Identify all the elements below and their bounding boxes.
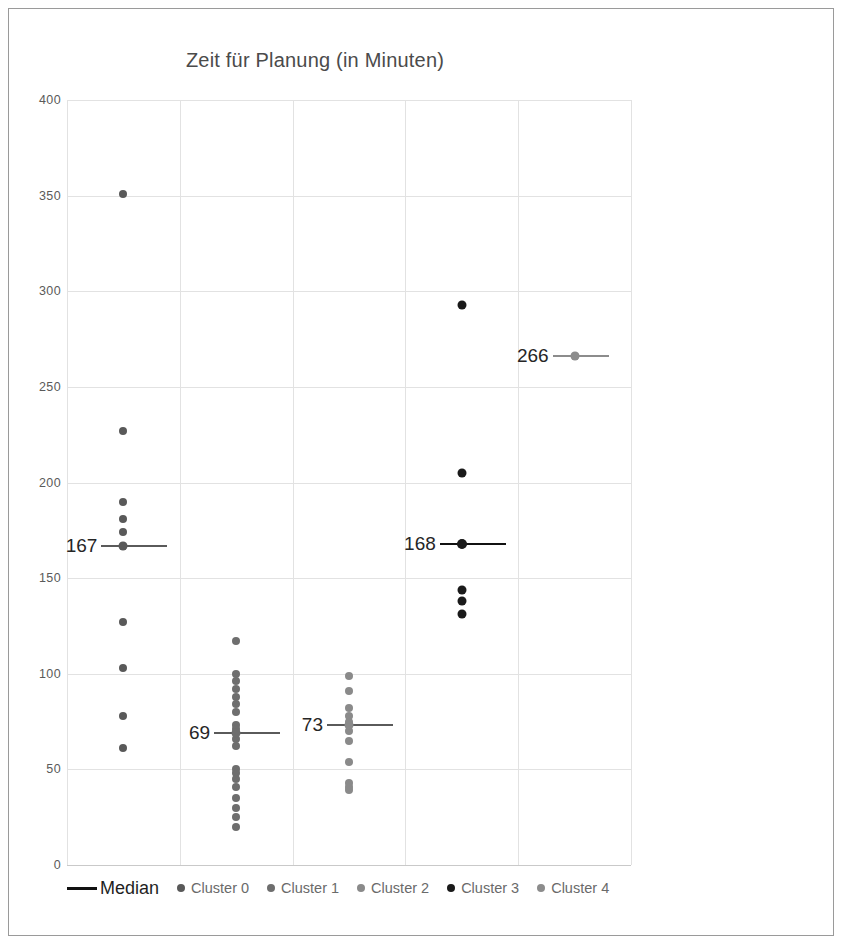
legend-item-label: Median	[100, 878, 159, 899]
legend-item-label: Cluster 4	[551, 880, 609, 896]
data-point	[119, 498, 127, 506]
data-point	[119, 664, 127, 672]
median-line	[349, 724, 393, 726]
median-line	[236, 732, 280, 734]
median-value-label: 266	[517, 345, 549, 367]
legend-dot-icon	[537, 884, 545, 892]
gridline-vertical	[67, 100, 68, 865]
median-line	[123, 545, 167, 547]
y-axis-tick-label: 200	[15, 476, 61, 490]
median-value-label: 69	[189, 722, 210, 744]
data-point	[457, 597, 466, 606]
y-axis-tick-label: 0	[15, 858, 61, 872]
data-point	[119, 515, 127, 523]
legend-dot-icon	[177, 884, 185, 892]
y-axis-tick-label: 300	[15, 284, 61, 298]
median-value-label: 73	[302, 714, 323, 736]
legend-item-label: Cluster 0	[191, 880, 249, 896]
gridline-vertical	[293, 100, 294, 865]
y-axis-tick-labels: 400350300250200150100500	[9, 100, 61, 865]
gridline-horizontal	[67, 291, 631, 292]
median-marker	[232, 729, 241, 738]
data-point	[232, 794, 240, 802]
data-point	[232, 804, 240, 812]
data-point	[232, 823, 240, 831]
gridline-vertical	[518, 100, 519, 865]
gridline-vertical	[405, 100, 406, 865]
y-axis-tick-label: 250	[15, 380, 61, 394]
data-point	[232, 783, 240, 791]
legend-dot-icon	[267, 884, 275, 892]
gridline-horizontal	[67, 100, 631, 101]
legend-item[interactable]: Cluster 2	[357, 880, 429, 896]
legend-item[interactable]: Cluster 0	[177, 880, 249, 896]
chart-screenshot: Zeit für Planung (in Minuten) 4003503002…	[0, 0, 844, 952]
data-point	[119, 190, 127, 198]
data-point	[232, 742, 240, 750]
legend-item-label: Cluster 2	[371, 880, 429, 896]
y-axis-tick-label: 100	[15, 667, 61, 681]
data-point	[232, 637, 240, 645]
legend-line-icon	[67, 887, 97, 890]
chart-title: Zeit für Planung (in Minuten)	[9, 49, 621, 72]
legend-item[interactable]: Cluster 4	[537, 880, 609, 896]
legend-item[interactable]: Cluster 1	[267, 880, 339, 896]
legend-item-label: Cluster 1	[281, 880, 339, 896]
legend-item[interactable]: Cluster 3	[447, 880, 519, 896]
median-marker	[345, 721, 354, 730]
y-axis-tick-label: 400	[15, 93, 61, 107]
data-point	[457, 610, 466, 619]
data-point	[119, 528, 127, 536]
gridline-vertical	[180, 100, 181, 865]
legend-dot-icon	[357, 884, 365, 892]
chart-legend: MedianCluster 0Cluster 1Cluster 2Cluster…	[67, 875, 687, 901]
data-point	[119, 427, 127, 435]
data-point	[119, 744, 127, 752]
figure-frame: Zeit für Planung (in Minuten) 4003503002…	[8, 8, 834, 936]
data-point	[345, 758, 353, 766]
legend-item-label: Cluster 3	[461, 880, 519, 896]
y-axis-tick-label: 150	[15, 571, 61, 585]
plot-area: 1676973168266	[67, 100, 631, 865]
data-point	[345, 737, 353, 745]
median-marker	[570, 352, 579, 361]
gridline-horizontal	[67, 865, 631, 866]
y-axis-tick-label: 350	[15, 189, 61, 203]
gridline-horizontal	[67, 483, 631, 484]
legend-dot-icon	[447, 884, 455, 892]
data-point	[232, 708, 240, 716]
legend-item[interactable]: Median	[67, 878, 159, 899]
gridline-horizontal	[67, 196, 631, 197]
data-point	[119, 712, 127, 720]
data-point	[345, 672, 353, 680]
median-marker	[119, 541, 128, 550]
data-point	[457, 300, 466, 309]
data-point	[345, 687, 353, 695]
data-point	[345, 786, 353, 794]
median-line	[462, 543, 506, 545]
gridline-vertical	[631, 100, 632, 865]
gridline-horizontal	[67, 578, 631, 579]
data-point	[457, 585, 466, 594]
median-value-label: 168	[404, 533, 436, 555]
median-line	[575, 355, 609, 357]
data-point	[457, 468, 466, 477]
median-value-label: 167	[66, 535, 98, 557]
gridline-horizontal	[67, 769, 631, 770]
data-point	[119, 618, 127, 626]
gridline-horizontal	[67, 387, 631, 388]
y-axis-tick-label: 50	[15, 762, 61, 776]
median-marker	[457, 539, 467, 549]
data-point	[232, 813, 240, 821]
